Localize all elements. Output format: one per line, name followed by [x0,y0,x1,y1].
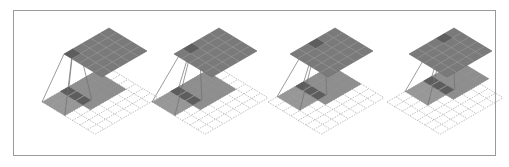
convolution-panel-3 [266,0,396,167]
input-grid-line [205,98,268,134]
output-feature-map [290,28,373,77]
output-feature-map [409,28,492,77]
input-grid-line [433,93,496,129]
input-grid-line [321,98,384,134]
convolution-panel-4 [385,0,509,167]
input-grid-line [440,98,503,134]
convolution-panel-2 [150,0,280,167]
input-grid-line [95,98,158,134]
